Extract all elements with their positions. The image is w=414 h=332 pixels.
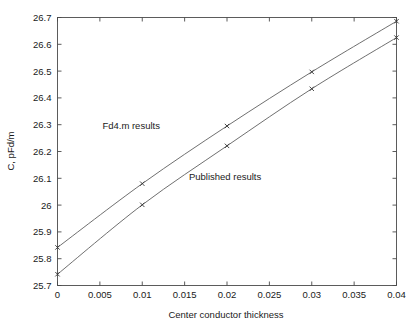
x-tick-label: 0 xyxy=(55,289,60,300)
y-tick-label: 26.2 xyxy=(33,146,52,157)
y-tick-label: 26.3 xyxy=(33,119,52,130)
x-tick-label: 0.035 xyxy=(342,289,366,300)
x-tick-label: 0.01 xyxy=(133,289,152,300)
x-tick-label: 0.03 xyxy=(303,289,322,300)
x-tick-label: 0.015 xyxy=(173,289,197,300)
y-tick-label: 25.9 xyxy=(33,226,52,237)
y-tick-label: 26.6 xyxy=(33,39,52,50)
y-tick-label: 25.7 xyxy=(33,280,52,291)
x-tick-label: 0.02 xyxy=(218,289,237,300)
x-tick-label: 0.04 xyxy=(387,289,406,300)
y-tick-label: 26.5 xyxy=(33,66,52,77)
y-tick-label: 26.1 xyxy=(33,173,52,184)
chart-background xyxy=(0,0,414,332)
y-tick-label: 26.7 xyxy=(33,12,52,23)
y-axis-label: C, pFd/m xyxy=(5,131,16,170)
line-chart: 00.0050.010.0150.020.0250.030.0350.04 25… xyxy=(0,0,414,332)
y-tick-label: 26.4 xyxy=(33,92,52,103)
chart-figure: 00.0050.010.0150.020.0250.030.0350.04 25… xyxy=(0,0,414,332)
y-tick-label: 25.8 xyxy=(33,253,52,264)
series-annotation-fd4m: Fd4.m results xyxy=(102,120,160,131)
y-tick-label: 26 xyxy=(41,200,52,211)
x-tick-label: 0.005 xyxy=(88,289,112,300)
x-axis-label: Center conductor thickness xyxy=(168,309,283,320)
x-tick-label: 0.025 xyxy=(257,289,281,300)
series-annotation-published: Published results xyxy=(189,171,262,182)
x-axis-tick-labels: 00.0050.010.0150.020.0250.030.0350.04 xyxy=(55,289,406,300)
